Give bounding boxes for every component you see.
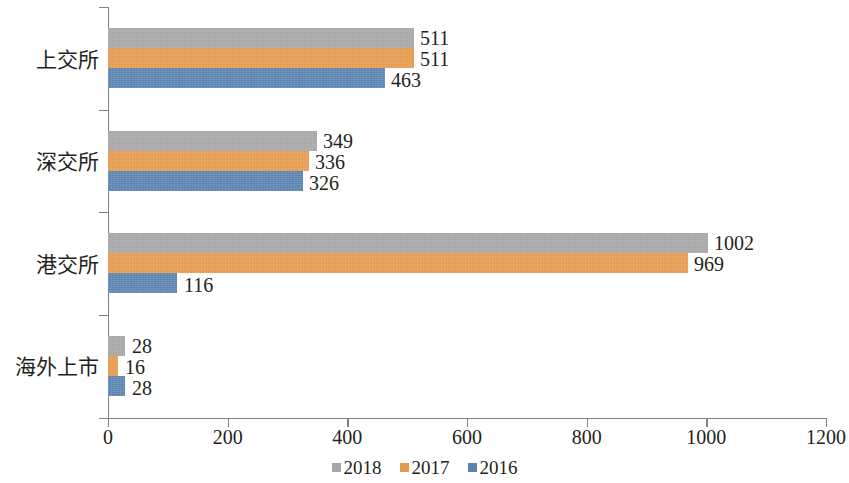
- legend-label-2016: 2016: [480, 458, 518, 477]
- legend-item-2018[interactable]: 2018: [332, 458, 382, 477]
- chart-legend: 2018 2017 2016: [0, 458, 849, 477]
- legend-swatch-icon: [468, 463, 477, 472]
- x-axis-labels: 0 200 400 600 800 1000 1200: [0, 0, 849, 483]
- legend-label-2017: 2017: [412, 458, 450, 477]
- bar-chart: 上交所 深交所 港交所 海外上市: [0, 0, 849, 483]
- legend-item-2017[interactable]: 2017: [400, 458, 450, 477]
- x-axis-tick-label-400: 400: [332, 427, 362, 447]
- x-axis-tick-label-0: 0: [103, 427, 113, 447]
- x-axis-tick-label-800: 800: [572, 427, 602, 447]
- x-axis-tick-label-600: 600: [452, 427, 482, 447]
- x-axis-tick-label-1200: 1200: [806, 427, 846, 447]
- x-axis-tick-label-200: 200: [213, 427, 243, 447]
- legend-label-2018: 2018: [344, 458, 382, 477]
- legend-swatch-icon: [400, 463, 409, 472]
- legend-item-2016[interactable]: 2016: [468, 458, 518, 477]
- legend-swatch-icon: [332, 463, 341, 472]
- x-axis-tick-label-1000: 1000: [686, 427, 726, 447]
